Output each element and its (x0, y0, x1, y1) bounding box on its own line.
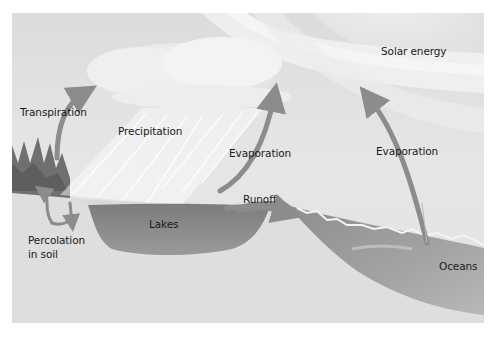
label-precipitation: Precipitation (118, 125, 182, 137)
label-oceans: Oceans (439, 260, 477, 272)
label-evaporation-lake: Evaporation (229, 147, 291, 159)
percolation-down-arrow (70, 203, 72, 223)
water-cycle-diagram (12, 13, 484, 323)
label-transpiration: Transpiration (20, 106, 87, 118)
diagram-artwork (12, 13, 484, 323)
label-in-soil: in soil (28, 248, 58, 260)
label-runoff: Runoff (243, 193, 276, 205)
label-solar-energy: Solar energy (381, 45, 446, 57)
label-percolation: Percolation (28, 234, 85, 246)
label-lakes: Lakes (149, 218, 178, 230)
label-evaporation-ocean: Evaporation (376, 145, 438, 157)
